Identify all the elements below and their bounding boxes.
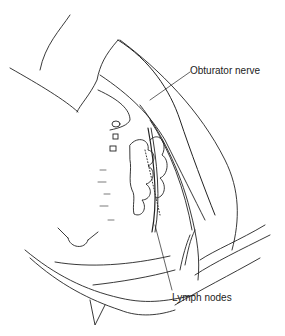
obturator-nerve-label: Obturator nerve xyxy=(190,65,260,76)
anatomy-drawing xyxy=(0,0,285,336)
lymph-nodes-label: Lymph nodes xyxy=(172,292,232,303)
illustration: Obturator nerve Lymph nodes xyxy=(0,0,285,336)
